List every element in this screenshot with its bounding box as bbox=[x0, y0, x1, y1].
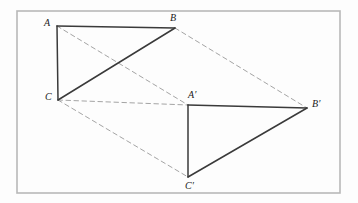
geometry-diagram bbox=[0, 0, 358, 203]
edge-c-b bbox=[58, 28, 175, 100]
edge-a-ap bbox=[57, 26, 188, 105]
figure-border bbox=[17, 11, 340, 193]
edge-c-cp bbox=[58, 100, 188, 177]
vertex-label-c: C bbox=[45, 92, 52, 102]
figure-canvas: ABCA′B′C′ bbox=[0, 0, 358, 203]
edge-a-b bbox=[57, 26, 175, 28]
vertex-label-b: B bbox=[170, 13, 176, 23]
vertex-label-a: A bbox=[44, 18, 50, 28]
vertex-label-bp: B′ bbox=[312, 99, 321, 109]
edge-a-c bbox=[57, 26, 58, 100]
edge-cp-bp bbox=[188, 108, 307, 177]
edge-c-ap bbox=[58, 100, 188, 105]
dashed-edge-group bbox=[57, 26, 307, 177]
vertex-label-cp: C′ bbox=[185, 181, 194, 191]
edge-ap-bp bbox=[188, 105, 307, 108]
vertex-label-ap: A′ bbox=[188, 90, 197, 100]
